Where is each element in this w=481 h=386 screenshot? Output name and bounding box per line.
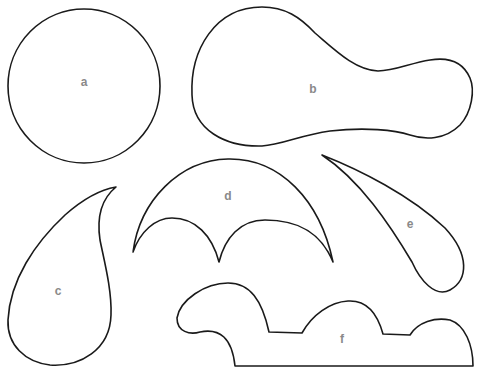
- curved-teardrop-outline: [322, 155, 464, 292]
- shape-e: e: [322, 155, 464, 292]
- shape-label-f: f: [340, 332, 345, 346]
- shape-label-d: d: [224, 189, 231, 203]
- shape-f: f: [177, 283, 473, 366]
- shape-label-a: a: [81, 75, 88, 89]
- shape-d: d: [133, 159, 333, 262]
- shape-b: b: [192, 7, 472, 146]
- shapes-diagram: a b c d e f: [0, 0, 481, 386]
- shape-c: c: [8, 187, 116, 365]
- teardrop-outline: [8, 187, 116, 365]
- shape-label-b: b: [309, 82, 316, 96]
- wavy-profile-outline: [177, 283, 473, 366]
- shape-a: a: [8, 9, 160, 163]
- shape-label-c: c: [55, 284, 62, 298]
- gourd-outline: [192, 7, 472, 146]
- scalloped-arc-outline: [133, 159, 333, 262]
- shape-label-e: e: [407, 217, 414, 231]
